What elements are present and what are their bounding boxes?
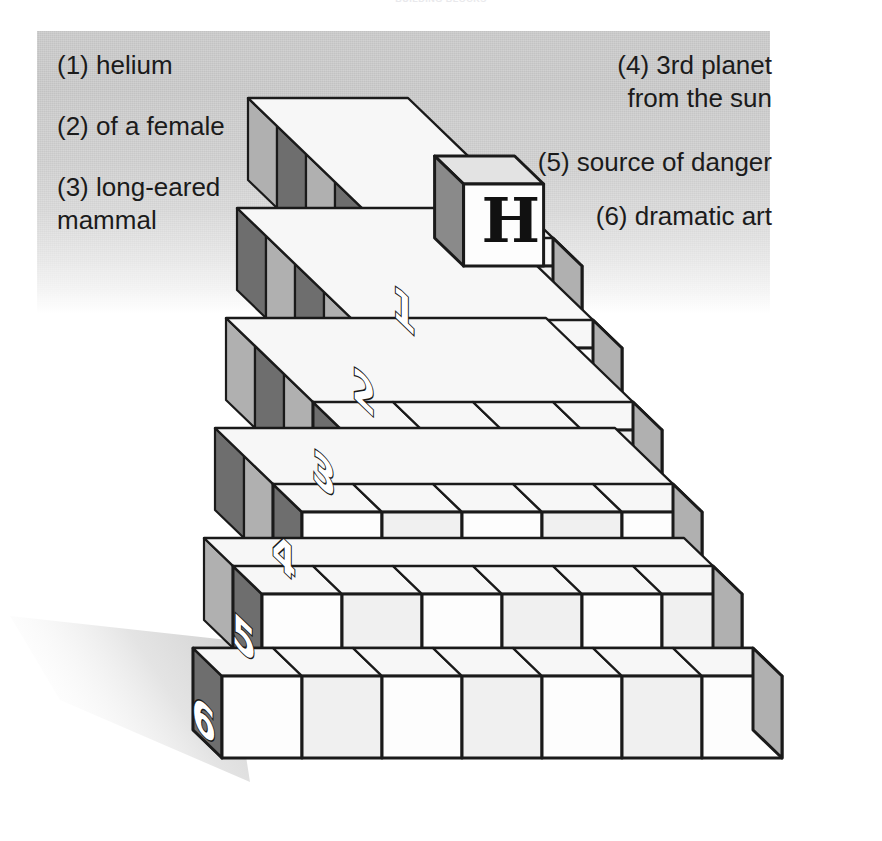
block-face [542,676,622,758]
block-face [382,676,462,758]
illustration-canvas: BUILDING BLOCKS (1) helium (2) of a fema… [0,0,882,841]
clue-item-2: (2) of a female [57,110,225,143]
clue-item-5: (5) source of danger [538,146,772,179]
block-face [462,676,542,758]
clue-item-4: (4) 3rd planet from the sun [617,49,772,115]
block-face [302,676,382,758]
block-face [222,676,302,758]
apex-letter: H [482,190,541,252]
clue-item-1: (1) helium [57,49,173,82]
clue-item-6: (6) dramatic art [596,200,772,233]
clue-item-3: (3) long-eared mammal [57,171,220,237]
block-face [622,676,702,758]
